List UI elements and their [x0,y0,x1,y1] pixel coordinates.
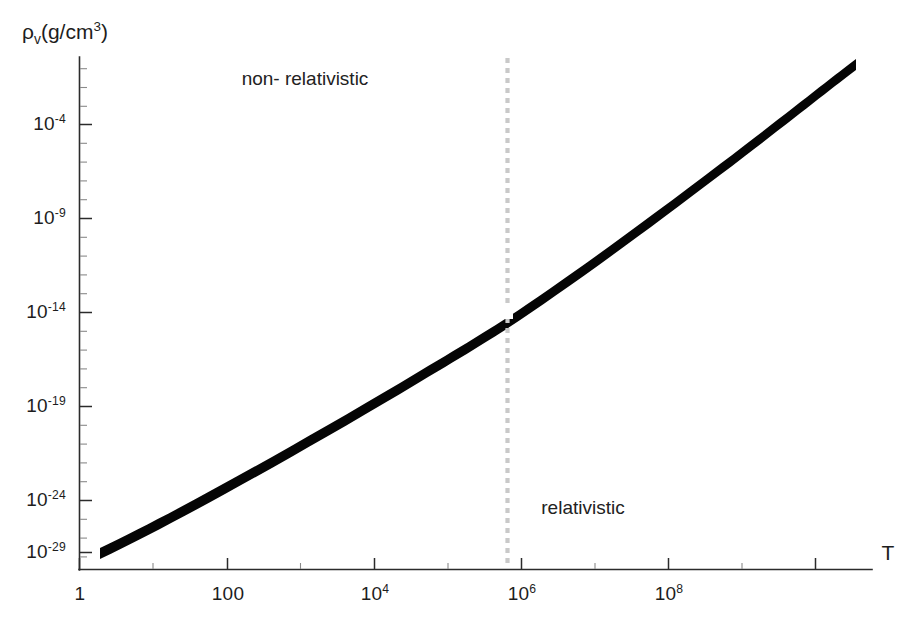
y-tick-exponent: -4 [55,112,66,126]
y-tick-label: 10-4 [14,113,66,135]
x-minor-ticks [153,563,742,569]
x-tick-label: 104 [361,583,390,605]
x-tick-base: 1 [75,583,86,604]
y-tick-exponent: -29 [48,540,66,554]
y-tick-label: 10-29 [6,541,66,563]
density-temperature-plot: ρv(g/cm3) T 10-4 10-9 10-14 10-19 10-24 … [0,0,918,618]
y-tick-exponent: -9 [55,206,66,220]
y-tick-base: 10 [26,541,48,562]
x-tick-label: 106 [508,583,537,605]
x-tick-base: 10 [508,583,530,604]
curve-divider-gap [502,308,513,319]
plot-canvas [0,0,918,618]
y-tick-label: 10-9 [14,207,66,229]
x-tick-label: 108 [655,583,684,605]
x-tick-label: 1 [75,583,86,605]
y-tick-exponent: -14 [48,300,66,314]
y-tick-base: 10 [26,301,48,322]
y-axis-title-units-exponent: 3 [93,19,100,34]
y-major-ticks [80,125,92,553]
y-axis-title-units-open: (g/cm [41,20,94,43]
x-tick-label: 100 [212,583,244,605]
y-tick-base: 10 [33,113,55,134]
x-axis-title: T [882,541,895,565]
x-tick-base: 10 [655,583,677,604]
y-tick-exponent: -19 [48,394,66,408]
y-axis-title-subscript: v [34,31,41,47]
annotation-non-relativistic: non- relativistic [242,68,369,90]
x-tick-exponent: 6 [529,582,536,596]
annotation-relativistic: relativistic [541,497,624,519]
y-tick-label: 10-19 [6,395,66,417]
y-tick-base: 10 [26,489,48,510]
y-axis-title-units-close: ) [101,20,108,43]
y-tick-label: 10-14 [6,301,66,323]
y-axis-title: ρv(g/cm3) [22,20,108,44]
y-tick-base: 10 [33,207,55,228]
y-tick-exponent: -24 [48,488,66,502]
x-tick-base: 100 [212,583,244,604]
y-tick-base: 10 [26,395,48,416]
x-tick-exponent: 8 [676,582,683,596]
y-axis-title-rho: ρ [22,20,34,43]
x-tick-base: 10 [361,583,383,604]
y-tick-label: 10-24 [6,489,66,511]
x-tick-exponent: 4 [382,582,389,596]
density-curve-band [100,59,856,559]
